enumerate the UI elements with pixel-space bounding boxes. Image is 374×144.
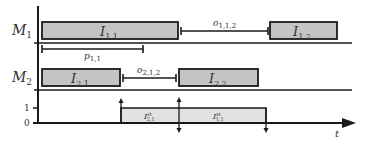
svg-text:o2,1,2: o2,1,2: [137, 65, 160, 77]
interval-o212: o2,1,2: [123, 65, 176, 82]
machine-2-label: M2: [11, 69, 32, 87]
step-function: Ist2,1 Ist1,1: [121, 108, 266, 123]
interval-o112: o1,1,2: [181, 18, 268, 35]
tick-label-1: 1: [24, 103, 30, 113]
operation-I12: I1,2: [270, 22, 337, 41]
operation-I21: I2,1: [42, 69, 120, 88]
operation-I11: I1,1: [42, 22, 178, 41]
svg-text:o1,1,2: o1,1,2: [213, 18, 236, 30]
interval-p11: p1,1: [42, 45, 143, 63]
operation-I22: I2,2: [179, 69, 258, 88]
machine-1-label: M1: [11, 22, 32, 40]
tick-label-0: 0: [24, 118, 30, 128]
svg-text:p1,1: p1,1: [84, 51, 101, 63]
time-axis-label: t: [335, 128, 340, 139]
scheduling-diagram: M1 M2 I1,1 I1,2 o1,1,2 p1,1 I2,1 I2,2 o2…: [0, 0, 374, 144]
